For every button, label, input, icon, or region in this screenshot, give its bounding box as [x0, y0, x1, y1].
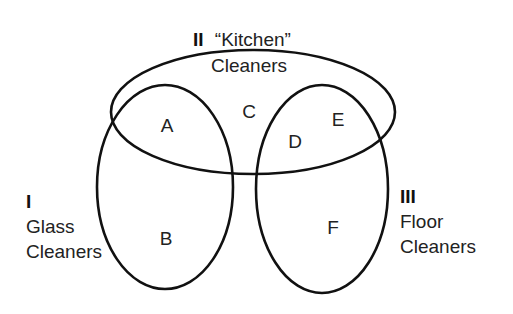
set-ii-numeral: II — [193, 29, 204, 50]
set-i-name-line2: Cleaners — [26, 241, 102, 262]
set-iii-numeral: III — [400, 186, 416, 207]
region-e-label: E — [332, 109, 345, 130]
set-iii-name-line1: Floor — [400, 211, 444, 232]
region-d-label: D — [288, 131, 302, 152]
set-i-numeral: I — [26, 191, 31, 212]
region-c-label: C — [242, 101, 256, 122]
set-iii-name-line2: Cleaners — [400, 236, 476, 257]
set-iii-floor-cleaners-outline — [256, 85, 388, 293]
set-ii-name-line2: Cleaners — [211, 55, 287, 76]
set-ii-name-line1: “Kitchen” — [215, 29, 291, 50]
region-a-label: A — [161, 115, 174, 136]
region-b-label: B — [160, 228, 173, 249]
set-i-name-line1: Glass — [26, 216, 75, 237]
region-f-label: F — [327, 217, 339, 238]
set-ii-label-line1: II “Kitchen” — [193, 29, 291, 50]
venn-diagram: II “Kitchen” Cleaners I Glass Cleaners I… — [0, 0, 513, 314]
